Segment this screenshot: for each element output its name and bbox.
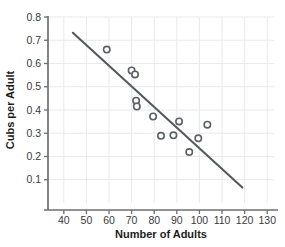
x-axis-title: Number of Adults	[115, 228, 207, 240]
y-tick-label: 0.4	[26, 104, 41, 116]
x-tick-label: 120	[236, 214, 254, 226]
data-point	[150, 113, 156, 119]
x-tick-label: 70	[126, 214, 138, 226]
x-tick-label: 50	[81, 214, 93, 226]
data-point	[170, 132, 176, 138]
data-points	[104, 46, 211, 155]
y-tick-label: 0.8	[26, 11, 41, 23]
data-point	[158, 133, 164, 139]
x-tick-label: 90	[171, 214, 183, 226]
chart-canvas: 0.10.20.30.40.50.60.70.8 405060708090100…	[0, 0, 285, 247]
data-point	[132, 71, 138, 77]
data-point	[204, 121, 210, 127]
y-tick-label: 0.3	[26, 127, 41, 139]
y-tick-label: 0.6	[26, 57, 41, 69]
grid-lines	[48, 17, 274, 203]
data-point	[104, 46, 110, 52]
scatter-plot-figure: 0.10.20.30.40.50.60.70.8 405060708090100…	[0, 0, 285, 247]
y-tick-label: 0.1	[26, 173, 41, 185]
data-point	[195, 135, 201, 141]
x-tick-label: 80	[148, 214, 160, 226]
x-tick-label: 100	[191, 214, 209, 226]
x-tick-label: 130	[258, 214, 276, 226]
data-point	[134, 103, 140, 109]
y-tick-label: 0.2	[26, 150, 41, 162]
x-tick-label: 60	[103, 214, 115, 226]
y-tick-label: 0.7	[26, 34, 41, 46]
y-axis-title: Cubs per Adult	[4, 70, 16, 149]
x-tick-label: 110	[214, 214, 231, 226]
y-tick-label: 0.5	[26, 80, 41, 92]
data-point	[176, 118, 182, 124]
y-tick-labels: 0.10.20.30.40.50.60.70.8	[26, 11, 41, 186]
x-tick-labels: 405060708090100110120130	[58, 214, 276, 226]
data-point	[186, 149, 192, 155]
x-tick-label: 40	[58, 214, 70, 226]
